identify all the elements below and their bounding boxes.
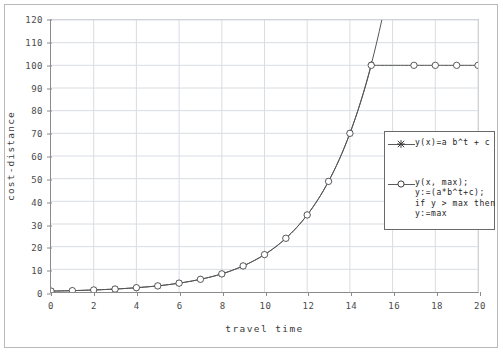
- y-tick-label: 120: [25, 15, 43, 25]
- x-tick-mark: [137, 292, 138, 296]
- legend-label-capped-line-4: y:=max: [415, 209, 496, 219]
- y-tick-mark: [47, 65, 52, 66]
- y-tick-label: 90: [31, 84, 43, 94]
- y-tick-mark: [47, 248, 52, 249]
- y-tick-label: 10: [31, 266, 43, 276]
- y-tick-mark: [47, 271, 52, 272]
- x-tick-label: 20: [474, 301, 486, 311]
- figure-frame: 0102030405060708090100110120 02468101214…: [4, 4, 498, 348]
- x-tick-label: 18: [431, 301, 443, 311]
- y-tick-mark: [47, 134, 52, 135]
- legend: y(x)=a b^t + c y(x, max); y:=(a*b^t+c); …: [384, 131, 495, 230]
- x-tick-label: 0: [48, 301, 54, 311]
- x-tick-label: 2: [91, 301, 97, 311]
- y-tick-label: 110: [25, 38, 43, 48]
- x-tick-mark: [480, 292, 481, 296]
- y-tick-label: 60: [31, 152, 43, 162]
- y-tick-mark: [47, 20, 52, 21]
- legend-label-capped-line-2: y:=(a*b^t+c);: [415, 188, 496, 198]
- y-tick-mark: [47, 157, 52, 158]
- legend-label-exponential: y(x)=a b^t + c: [415, 138, 490, 148]
- legend-label-capped-block: y(x, max); y:=(a*b^t+c); if y > max then…: [415, 178, 496, 220]
- legend-label-capped-line-3: if y > max then: [415, 199, 496, 209]
- x-tick-mark: [437, 292, 438, 296]
- y-tick-mark: [47, 111, 52, 112]
- y-tick-label: 30: [31, 221, 43, 231]
- y-tick-mark: [47, 88, 52, 89]
- y-tick-mark: [47, 225, 52, 226]
- chart-screenshot: 0102030405060708090100110120 02468101214…: [0, 0, 503, 353]
- x-tick-label: 14: [345, 301, 357, 311]
- x-tick-mark: [308, 292, 309, 296]
- x-tick-mark: [51, 292, 52, 296]
- legend-marker-circle: [388, 179, 415, 190]
- legend-entry-exponential: y(x)=a b^t + c: [385, 138, 494, 150]
- y-tick-label: 80: [31, 106, 43, 116]
- y-tick-label: 20: [31, 243, 43, 253]
- x-axis-title: travel time: [50, 323, 479, 334]
- y-tick-mark: [47, 202, 52, 203]
- x-tick-mark: [394, 292, 395, 296]
- y-tick-label: 50: [31, 175, 43, 185]
- y-tick-label: 40: [31, 198, 43, 208]
- legend-entry-capped: y(x, max); y:=(a*b^t+c); if y > max then…: [385, 178, 494, 220]
- y-tick-label: 100: [25, 61, 43, 71]
- x-tick-mark: [223, 292, 224, 296]
- y-tick-label: 0: [37, 289, 43, 299]
- y-axis-title: cost-distance: [5, 111, 16, 201]
- y-tick-mark: [47, 179, 52, 180]
- x-tick-label: 12: [302, 301, 314, 311]
- x-tick-label: 8: [220, 301, 226, 311]
- x-tick-mark: [351, 292, 352, 296]
- x-tick-label: 16: [388, 301, 400, 311]
- x-tick-label: 10: [260, 301, 272, 311]
- legend-label-capped-line-1: y(x, max);: [415, 178, 496, 188]
- legend-marker-star: [388, 139, 415, 150]
- y-tick-mark: [47, 42, 52, 43]
- x-tick-label: 4: [134, 301, 140, 311]
- x-tick-mark: [94, 292, 95, 296]
- x-tick-label: 6: [177, 301, 183, 311]
- x-tick-mark: [266, 292, 267, 296]
- y-tick-label: 70: [31, 129, 43, 139]
- x-tick-mark: [180, 292, 181, 296]
